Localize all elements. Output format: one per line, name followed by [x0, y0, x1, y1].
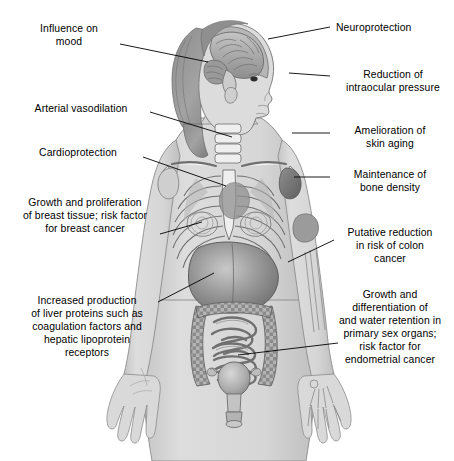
label-arterial-vasodilation: Arterial vasodilation — [16, 102, 146, 115]
label-neuroprotection: Neuroprotection — [336, 21, 446, 34]
label-sex-organs: Growth and differentiation of and water … — [330, 288, 450, 366]
leader-intraocular-pressure — [289, 73, 330, 76]
diagram-canvas: Influence on mood Arterial vasodilation … — [0, 0, 454, 461]
label-skin-aging: Amelioration of skin aging — [334, 124, 446, 150]
label-cardioprotection: Cardioprotection — [18, 146, 138, 159]
label-intraocular-pressure: Reduction of intraocular pressure — [334, 68, 452, 94]
leader-neuroprotection — [268, 27, 330, 39]
label-bone-density: Maintenance of bone density — [334, 168, 446, 194]
label-influence-on-mood: Influence on mood — [20, 22, 118, 48]
eye — [250, 77, 257, 82]
label-colon-cancer: Putative reduction in risk of colon canc… — [334, 226, 446, 265]
label-breast-growth: Growth and proliferation of breast tissu… — [12, 196, 158, 235]
label-liver-proteins: Increased production of liver proteins s… — [16, 294, 158, 359]
